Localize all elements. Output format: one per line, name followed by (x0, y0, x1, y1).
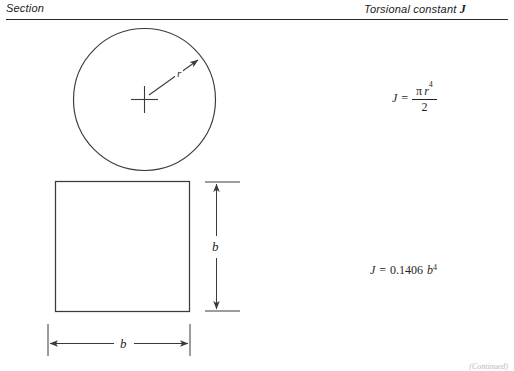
square-width-dimension-label: b (117, 336, 130, 352)
solid-square-section-drawing (48, 182, 240, 357)
torsional-constant-formula-square: J = 0.1406 b4 (370, 263, 437, 278)
solid-circular-section-drawing (74, 29, 216, 171)
formula-circle-numerator: πr4 (412, 84, 437, 99)
formula-square-exponent: 4 (433, 263, 437, 272)
pi-symbol: π (416, 84, 422, 98)
formula-square-lhs: J (370, 263, 375, 278)
formula-circle-exponent: 4 (429, 80, 433, 89)
square-height-dimension-label: b (209, 239, 222, 255)
formula-square-equals: = (379, 263, 386, 278)
formula-square-coefficient: 0.1406 (390, 263, 423, 278)
square-outline (56, 182, 190, 312)
radius-dimension-label: r (175, 67, 183, 79)
formula-circle-lhs: J (392, 91, 397, 106)
formula-circle-denominator: 2 (417, 100, 431, 114)
continued-note: (Continued) (469, 362, 508, 371)
formula-circle-equals: = (401, 91, 408, 106)
formula-circle-fraction: πr4 2 (412, 84, 437, 113)
torsional-constant-formula-circle: J = πr4 2 (392, 84, 437, 113)
radius-dimension-arrow (149, 60, 198, 95)
